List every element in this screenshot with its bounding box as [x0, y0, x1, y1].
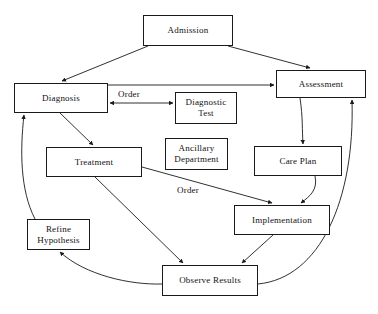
edge-admission-to-diagnosis [62, 46, 148, 81]
node-treatment[interactable]: Treatment [46, 147, 142, 177]
node-care-plan-label: Care Plan [277, 156, 318, 167]
node-implementation-label: Implementation [250, 215, 314, 226]
flowchart-canvas: Admission Diagnosis Assessment Diagnosti… [0, 0, 378, 314]
edge-implementation-to-observe-results [242, 235, 273, 263]
edge-label-order-diagnostic-test: Order [118, 90, 140, 99]
edge-observe-results-to-assessment [258, 100, 352, 284]
edge-assessment-to-care-plan [300, 98, 303, 144]
node-diagnosis[interactable]: Diagnosis [14, 83, 108, 113]
node-implementation[interactable]: Implementation [234, 205, 330, 235]
edge-treatment-to-implementation [142, 167, 272, 203]
edge-refine-hypothesis-to-diagnosis [22, 115, 35, 219]
node-ancillary-department-label: Ancillary Department [172, 143, 220, 165]
node-assessment[interactable]: Assessment [276, 70, 366, 98]
edge-care-plan-to-implementation [301, 176, 316, 203]
edge-diagnosis-to-treatment [60, 113, 93, 145]
node-diagnosis-label: Diagnosis [40, 93, 82, 104]
node-admission-label: Admission [166, 25, 211, 36]
edge-observe-results-to-refine-hypothesis [60, 252, 162, 284]
node-observe-results[interactable]: Observe Results [162, 265, 258, 296]
node-admission[interactable]: Admission [143, 15, 233, 46]
node-refine-hypothesis-label: Refine Hypothesis [35, 224, 82, 246]
node-assessment-label: Assessment [297, 79, 346, 90]
edge-label-order-implementation: Order [177, 186, 199, 195]
node-ancillary-department[interactable]: Ancillary Department [165, 138, 228, 170]
node-care-plan[interactable]: Care Plan [254, 146, 342, 176]
edge-treatment-to-observe-results [95, 177, 183, 263]
edge-admission-to-assessment [228, 46, 310, 68]
node-treatment-label: Treatment [73, 157, 115, 168]
node-diagnostic-test-label: Diagnostic Test [184, 97, 229, 119]
node-refine-hypothesis[interactable]: Refine Hypothesis [27, 219, 90, 250]
node-observe-results-label: Observe Results [177, 275, 243, 286]
node-diagnostic-test[interactable]: Diagnostic Test [175, 92, 237, 124]
